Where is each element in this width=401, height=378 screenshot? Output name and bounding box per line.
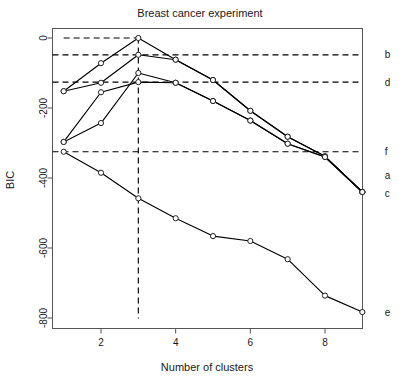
x-tick-label: 8 <box>322 337 328 348</box>
y-axis-ticks: 0-200-400-600-800 <box>38 35 53 328</box>
x-tick-label: 2 <box>98 337 104 348</box>
data-point <box>248 108 253 113</box>
data-point <box>136 196 141 201</box>
label-a: a <box>385 170 391 181</box>
page-title: Breast cancer experiment <box>137 7 262 19</box>
data-point <box>248 118 253 123</box>
chart-figure: Breast cancer experiment Number of clust… <box>0 0 401 378</box>
y-tick-label: -200 <box>38 98 49 118</box>
data-point <box>285 141 290 146</box>
x-axis-ticks: 2468 <box>98 329 328 348</box>
data-point <box>322 293 327 298</box>
y-tick-label: -400 <box>38 168 49 188</box>
x-axis-title: Number of clusters <box>161 361 254 373</box>
data-point <box>61 139 66 144</box>
x-tick-label: 6 <box>248 337 254 348</box>
series-line-c <box>64 73 363 192</box>
label-f: f <box>385 146 388 157</box>
data-point <box>136 35 141 40</box>
data-point <box>285 257 290 262</box>
data-point <box>210 234 215 239</box>
y-axis-title: BIC <box>4 171 16 189</box>
data-point <box>98 170 103 175</box>
y-tick-label: -800 <box>38 308 49 328</box>
data-point <box>173 80 178 85</box>
data-point <box>61 149 66 154</box>
y-tick-label: -600 <box>38 238 49 258</box>
data-point <box>136 52 141 57</box>
chart-title-group: Breast cancer experiment <box>137 7 262 19</box>
series-line-a <box>64 38 363 192</box>
data-point <box>210 77 215 82</box>
axis-titles: Number of clusters BIC <box>4 171 254 373</box>
data-point <box>98 61 103 66</box>
plot-frame <box>53 29 363 329</box>
data-point <box>285 134 290 139</box>
data-point <box>248 238 253 243</box>
data-point <box>173 57 178 62</box>
x-tick-label: 4 <box>173 337 179 348</box>
data-point <box>360 309 365 314</box>
data-point <box>98 120 103 125</box>
data-point <box>61 89 66 94</box>
label-e: e <box>385 307 391 318</box>
label-b: b <box>385 49 391 60</box>
data-point <box>98 90 103 95</box>
data-point <box>210 98 215 103</box>
data-point <box>98 80 103 85</box>
series-annotations: bdface <box>385 49 391 317</box>
series-points <box>61 35 365 314</box>
data-point <box>173 216 178 221</box>
label-d: d <box>385 77 391 88</box>
chart-svg: Breast cancer experiment Number of clust… <box>0 0 401 378</box>
reference-lines <box>53 38 363 319</box>
label-c: c <box>385 188 390 199</box>
data-point <box>360 189 365 194</box>
series-line-series-peak-b <box>64 55 363 192</box>
data-point <box>322 154 327 159</box>
data-point <box>136 80 141 85</box>
y-tick-label: 0 <box>38 35 49 41</box>
series-line-e <box>64 152 363 312</box>
data-point <box>136 70 141 75</box>
